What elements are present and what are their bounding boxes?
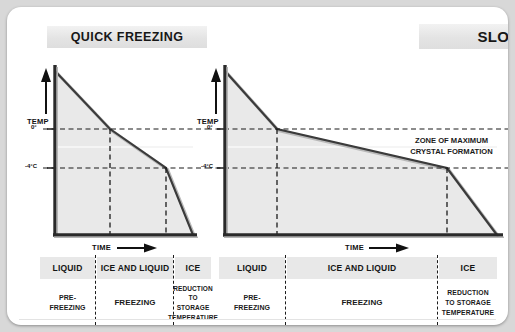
- quick-ytick-label-minus4: -4°C: [25, 163, 37, 169]
- slow-sub-pre-freezing-line1: PRE-: [243, 293, 260, 304]
- quick-sub-pre-freezing-line1: PRE-: [59, 293, 76, 304]
- quick-band-ice-and-liquid: ICE AND LIQUID: [97, 257, 173, 279]
- slow-temp-arrow-icon: [211, 68, 221, 114]
- quick-ytick-label-0: 0°: [31, 124, 37, 130]
- slow-band-ice-and-liquid: ICE AND LIQUID: [287, 257, 437, 279]
- panel-quick-freezing: QUICK FREEZING: [7, 7, 207, 325]
- zone-note-line1: ZONE OF MAXIMUM: [399, 135, 504, 146]
- slow-ytick-label-0: 0°: [207, 124, 213, 130]
- slow-sub-reduction-line3: TEMPERATURE: [442, 308, 494, 318]
- slow-band-ice: ICE: [439, 257, 497, 279]
- zone-of-maximum-crystal-formation-note: ZONE OF MAXIMUM CRYSTAL FORMATION: [399, 135, 504, 157]
- panel-slow-freezing: SLOW FREEZING TE: [207, 7, 508, 325]
- slow-sub-pre-freezing: PRE- FREEZING: [219, 283, 285, 323]
- slow-band-liquid: LIQUID: [219, 257, 285, 279]
- quick-temp-arrow-icon: [41, 68, 51, 114]
- quick-curve-fill: [55, 71, 193, 235]
- slow-sub-pre-freezing-line2: FREEZING: [234, 303, 270, 314]
- quick-band-liquid: LIQUID: [40, 257, 95, 279]
- quick-sub-freezing: FREEZING: [97, 283, 173, 323]
- quick-sub-pre-freezing: PRE- FREEZING: [40, 283, 95, 323]
- quick-time-arrow-icon: [117, 244, 157, 253]
- slow-sub-reduction-line2: TO STORAGE: [445, 298, 491, 308]
- card-bottom-rule: [19, 319, 496, 320]
- slow-sub-freezing: FREEZING: [287, 283, 437, 323]
- quick-sub-pre-freezing-line2: FREEZING: [49, 303, 85, 314]
- quick-band-ice: ICE: [175, 257, 211, 279]
- quick-band-divider-2: [173, 255, 174, 325]
- slow-ytick-label-minus4: -4°C: [201, 163, 213, 169]
- diagram-card: QUICK FREEZING: [7, 7, 508, 325]
- slow-x-axis-label: TIME: [345, 243, 364, 252]
- slow-time-arrow-icon: [369, 244, 409, 253]
- zone-note-line2: CRYSTAL FORMATION: [399, 146, 504, 157]
- slow-sub-reduction-line1: REDUCTION: [447, 288, 488, 298]
- slow-band-divider-1: [285, 255, 286, 325]
- slow-band-divider-2: [437, 255, 438, 325]
- quick-x-axis-label: TIME: [92, 243, 111, 252]
- quick-band-divider-1: [95, 255, 96, 325]
